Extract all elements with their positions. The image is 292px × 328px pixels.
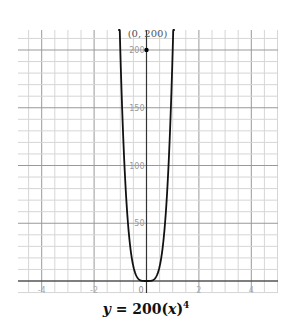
origin-label: 0 (138, 286, 143, 295)
x-tick-label: -4 (38, 286, 46, 295)
x-tick-label: 2 (196, 286, 201, 295)
y-tick-label: 100 (129, 162, 144, 171)
point-marker (144, 48, 148, 52)
caption-exponent: 4 (183, 300, 189, 310)
x-tick-label: -2 (90, 286, 98, 295)
caption-eq: = 200( (111, 301, 168, 317)
x-tick-label: 4 (249, 286, 254, 295)
y-tick-label: 200 (129, 46, 144, 55)
caption-y: y (103, 301, 111, 317)
equation-caption: y = 200(x)4 (0, 300, 292, 317)
y-tick-label: 50 (134, 219, 144, 228)
point-label: (0, 200) (128, 28, 168, 39)
y-tick-label: 150 (129, 104, 144, 113)
plot-area: -4-224501001502000(0, 200) (0, 0, 292, 300)
